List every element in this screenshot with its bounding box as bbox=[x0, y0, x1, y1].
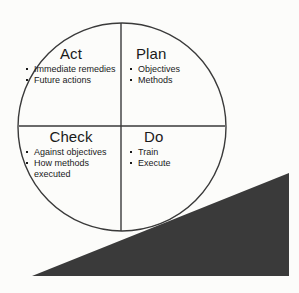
list-item-label: How methods executed bbox=[34, 158, 89, 179]
quadrant-do-title: Do bbox=[130, 128, 216, 145]
list-item: Execute bbox=[130, 158, 216, 169]
list-item: Future actions bbox=[26, 75, 118, 86]
list-item: Against objectives bbox=[26, 147, 118, 158]
list-item-label: Future actions bbox=[34, 75, 91, 85]
list-item-label: Objectives bbox=[138, 64, 180, 74]
list-item: Methods bbox=[130, 75, 216, 86]
bullet-icon bbox=[26, 79, 28, 81]
quadrant-plan-list: Objectives Methods bbox=[130, 64, 216, 86]
quadrant-do: Do Train Execute bbox=[130, 128, 216, 169]
quadrant-check-list: Against objectives How methods executed bbox=[26, 147, 118, 179]
list-item-label: Immediate remedies bbox=[34, 64, 116, 74]
list-item-label: Against objectives bbox=[34, 147, 107, 157]
quadrant-check: Check Against objectives How methods exe… bbox=[26, 128, 118, 180]
bullet-icon bbox=[130, 151, 132, 153]
quadrant-act-title: Act bbox=[26, 45, 118, 62]
list-item: Train bbox=[130, 147, 216, 158]
quadrant-plan: Plan Objectives Methods bbox=[130, 45, 216, 86]
list-item: How methods executed bbox=[26, 158, 118, 179]
bullet-icon bbox=[26, 162, 28, 164]
quadrant-check-title: Check bbox=[26, 128, 118, 145]
list-item-label: Train bbox=[138, 147, 158, 157]
bullet-icon bbox=[26, 151, 28, 153]
bullet-icon bbox=[130, 79, 132, 81]
ascending-ramp-shape bbox=[32, 173, 289, 276]
bullet-icon bbox=[26, 68, 28, 70]
bullet-icon bbox=[130, 162, 132, 164]
quadrant-act-list: Immediate remedies Future actions bbox=[26, 64, 118, 86]
quadrant-plan-title: Plan bbox=[130, 45, 216, 62]
pdca-diagram-canvas: Act Immediate remedies Future actions Pl… bbox=[0, 0, 299, 293]
list-item-label: Methods bbox=[138, 75, 173, 85]
quadrant-act: Act Immediate remedies Future actions bbox=[26, 45, 118, 86]
list-item-label: Execute bbox=[138, 158, 171, 168]
bullet-icon bbox=[130, 68, 132, 70]
quadrant-do-list: Train Execute bbox=[130, 147, 216, 169]
list-item: Objectives bbox=[130, 64, 216, 75]
list-item: Immediate remedies bbox=[26, 64, 118, 75]
